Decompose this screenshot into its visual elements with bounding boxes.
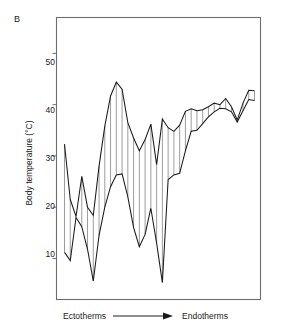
y-tick-label-30: 30 (33, 154, 55, 163)
plot-area (0, 0, 291, 335)
x-axis-right-label: Endotherms (182, 311, 228, 321)
y-tick-label-50: 50 (33, 58, 55, 67)
upper-envelope-line (65, 82, 255, 216)
figure-panel-b: B Body temperature (°C) 50 40 30 20 10 E… (0, 0, 291, 335)
x-axis-left-label: Ectotherms (63, 311, 106, 321)
x-axis-caption: Ectotherms Endotherms (0, 311, 291, 321)
y-tick-label-20: 20 (33, 202, 55, 211)
y-tick-label-10: 10 (33, 250, 55, 259)
panel-label: B (14, 14, 20, 24)
arrow-right-icon (113, 311, 175, 321)
lower-envelope-line (65, 100, 255, 283)
range-hatch-lines (65, 82, 255, 282)
y-tick-label-40: 40 (33, 106, 55, 115)
